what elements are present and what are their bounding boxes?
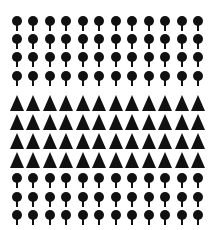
triangle-shape <box>191 114 205 130</box>
pin-stem <box>131 24 133 31</box>
triangle-icon <box>108 133 124 151</box>
map-pin-icon <box>42 190 58 208</box>
triangle-shape <box>26 133 40 149</box>
triangle-shape <box>26 152 40 168</box>
map-pin-icon <box>91 50 107 68</box>
triangle-shape <box>125 133 139 149</box>
triangle-icon <box>42 133 58 151</box>
pin-stem <box>82 218 84 225</box>
triangle-shape <box>10 133 24 149</box>
triangle-shape <box>59 114 73 130</box>
triangle-shape <box>26 114 40 130</box>
map-pin-icon <box>25 50 41 68</box>
map-pin-icon <box>157 171 173 189</box>
map-pin-icon <box>75 190 91 208</box>
pin-stem <box>148 218 150 225</box>
map-pin-icon <box>141 32 157 50</box>
map-pin-icon <box>9 190 25 208</box>
triangle-icon <box>190 95 206 113</box>
map-pin-icon <box>174 32 190 50</box>
pin-stem <box>115 181 117 188</box>
map-pin-icon <box>108 190 124 208</box>
pin-stem <box>181 181 183 188</box>
pin-stem <box>148 24 150 31</box>
map-pin-icon <box>42 171 58 189</box>
pin-stem <box>148 79 150 86</box>
triangle-icon <box>42 95 58 113</box>
map-pin-icon <box>75 50 91 68</box>
pin-stem <box>164 24 166 31</box>
triangle-shape <box>43 152 57 168</box>
triangle-icon <box>42 114 58 132</box>
triangle-shape <box>158 95 172 111</box>
map-pin-icon <box>190 32 206 50</box>
map-pin-icon <box>75 14 91 32</box>
pin-stem <box>98 200 100 207</box>
triangle-icon <box>25 133 41 151</box>
triangle-shape <box>76 152 90 168</box>
pin-stem <box>197 60 199 67</box>
triangle-shape <box>175 95 189 111</box>
pin-stem <box>32 79 34 86</box>
map-pin-icon <box>157 14 173 32</box>
triangle-shape <box>59 133 73 149</box>
pin-stem <box>32 42 34 49</box>
pin-stem <box>148 200 150 207</box>
triangle-icon <box>157 133 173 151</box>
map-pin-icon <box>157 208 173 226</box>
map-pin-icon <box>108 14 124 32</box>
map-pin-icon <box>141 69 157 87</box>
pin-stem <box>32 218 34 225</box>
pin-stem <box>32 181 34 188</box>
triangle-icon <box>58 133 74 151</box>
triangle-icon <box>25 152 41 170</box>
triangle-shape <box>92 152 106 168</box>
triangle-icon <box>190 133 206 151</box>
map-pin-icon <box>190 171 206 189</box>
triangle-shape <box>158 114 172 130</box>
triangle-shape <box>10 95 24 111</box>
pin-stem <box>131 42 133 49</box>
pin-stem <box>32 24 34 31</box>
pin-stem <box>16 200 18 207</box>
triangle-shape <box>125 114 139 130</box>
pin-stem <box>115 79 117 86</box>
map-pin-icon <box>42 208 58 226</box>
map-pin-icon <box>9 14 25 32</box>
pin-stem <box>49 60 51 67</box>
triangle-shape <box>43 133 57 149</box>
triangle-icon <box>108 114 124 132</box>
map-pin-icon <box>141 208 157 226</box>
triangle-icon <box>9 95 25 113</box>
map-pin-icon <box>25 32 41 50</box>
triangle-shape <box>109 152 123 168</box>
map-pin-icon <box>157 190 173 208</box>
triangle-icon <box>141 114 157 132</box>
pin-stem <box>131 79 133 86</box>
map-pin-icon <box>91 69 107 87</box>
triangle-icon <box>174 133 190 151</box>
triangle-icon <box>58 95 74 113</box>
pin-stem <box>131 181 133 188</box>
triangle-icon <box>124 133 140 151</box>
map-pin-icon <box>25 208 41 226</box>
map-pin-icon <box>190 50 206 68</box>
triangle-icon <box>58 152 74 170</box>
map-pin-icon <box>58 69 74 87</box>
triangle-icon <box>141 152 157 170</box>
pin-stem <box>16 42 18 49</box>
triangle-shape <box>125 152 139 168</box>
pin-stem <box>115 60 117 67</box>
triangle-shape <box>43 95 57 111</box>
map-pin-icon <box>9 50 25 68</box>
pin-stem <box>197 79 199 86</box>
pin-stem <box>49 42 51 49</box>
map-pin-icon <box>25 190 41 208</box>
triangle-icon <box>190 152 206 170</box>
map-pin-icon <box>141 171 157 189</box>
triangle-shape <box>59 95 73 111</box>
triangle-icon <box>124 152 140 170</box>
triangle-shape <box>59 152 73 168</box>
map-pin-icon <box>174 50 190 68</box>
pin-stem <box>82 60 84 67</box>
